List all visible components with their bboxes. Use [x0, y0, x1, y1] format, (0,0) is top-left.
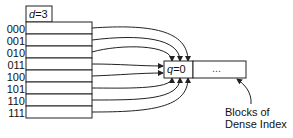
- directory-row-label: 101: [3, 83, 25, 95]
- global-depth-label: d=3: [29, 8, 48, 20]
- annotation-text-line1: Blocks of: [225, 106, 270, 118]
- directory-array: [26, 22, 92, 118]
- directory-row-label: 100: [3, 71, 25, 83]
- directory-row-label: 110: [3, 95, 25, 107]
- local-depth-label: q=0: [167, 63, 186, 75]
- directory-row-label: 000: [3, 23, 25, 35]
- directory-row-label: 011: [3, 59, 25, 71]
- annotation-text-line2: Dense Index: [225, 118, 287, 130]
- directory-row-label: 111: [3, 107, 25, 119]
- directory-row-label: 010: [3, 47, 25, 59]
- bucket-ellipsis: ...: [212, 62, 221, 74]
- directory-row-label: 001: [3, 35, 25, 47]
- annotation-arrow: [237, 79, 251, 104]
